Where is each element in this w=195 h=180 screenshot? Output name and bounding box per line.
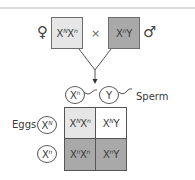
sperm-x-circle: Xn (65, 86, 85, 104)
cross-symbol: × (91, 27, 100, 40)
sperm-tail-y (119, 89, 132, 94)
male-symbol-icon: ♂ (143, 25, 156, 40)
female-symbol-icon: ♀ (37, 25, 48, 40)
female-genotype: XNXn (57, 28, 78, 39)
punnett-cell-xnxn: XnXn (65, 139, 96, 170)
punnett-cell-xNxn: XNXn (65, 108, 96, 139)
sperm-tail-x (84, 90, 97, 94)
male-genotype-box: XnY (108, 17, 140, 49)
punnett-square: XNXn XNY XnXn XnY (64, 107, 127, 171)
male-genotype: XnY (116, 28, 132, 39)
punnett-cell-xny: XnY (96, 139, 126, 170)
punnett-cell-xNy: XNY (96, 108, 126, 139)
sperm-y-circle: Y (99, 86, 119, 104)
sperm-label: Sperm (136, 91, 169, 102)
female-genotype-box: XNXn (51, 17, 83, 49)
eggs-label: Eggs (12, 119, 36, 130)
egg-xN-circle: XN (37, 116, 57, 134)
egg-xn-circle: Xn (37, 145, 57, 163)
